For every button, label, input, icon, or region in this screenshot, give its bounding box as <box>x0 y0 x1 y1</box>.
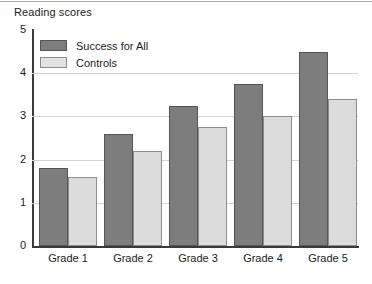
y-tick-label: 3 <box>0 109 26 121</box>
y-tick-label: 5 <box>0 23 26 35</box>
legend-swatch <box>40 57 67 68</box>
bar <box>104 134 133 246</box>
y-tick-label: 0 <box>0 239 26 251</box>
bar <box>169 106 198 246</box>
legend: Success for AllControls <box>40 38 148 72</box>
bar <box>263 116 292 246</box>
legend-item: Controls <box>40 55 148 70</box>
bar <box>198 127 227 246</box>
y-tick-label: 1 <box>0 196 26 208</box>
legend-label: Controls <box>76 57 117 69</box>
bar <box>299 52 328 246</box>
bar <box>133 151 162 246</box>
bar <box>39 168 68 246</box>
legend-item: Success for All <box>40 38 148 53</box>
chart-title: Reading scores <box>14 6 92 18</box>
bar-group <box>299 30 357 246</box>
x-axis-line <box>32 246 359 248</box>
legend-swatch <box>40 40 67 51</box>
x-tick-label: Grade 5 <box>283 252 372 264</box>
y-tick-label: 2 <box>0 153 26 165</box>
top-divider <box>0 1 372 2</box>
bar <box>234 84 263 246</box>
bar-group <box>234 30 292 246</box>
y-tick-label: 4 <box>0 66 26 78</box>
bar <box>68 177 97 246</box>
bar-group <box>169 30 227 246</box>
bar <box>328 99 357 246</box>
legend-label: Success for All <box>76 40 148 52</box>
